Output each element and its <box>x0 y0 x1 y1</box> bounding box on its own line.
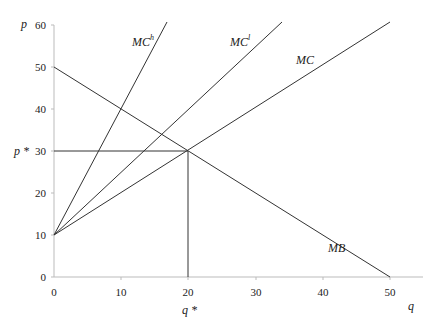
mc-label: MC <box>295 53 315 67</box>
y-tick-0: 0 <box>41 271 47 283</box>
y-tick-40: 40 <box>35 103 47 115</box>
x-ticks: 0 10 20 30 40 50 <box>51 277 396 298</box>
chart: 0 10 20 30 40 50 60 0 10 20 30 40 50 p q… <box>0 0 444 336</box>
x-tick-0: 0 <box>51 286 57 298</box>
x-axis-label: q <box>408 299 414 313</box>
mcl-label: MCl <box>229 33 251 49</box>
x-tick-10: 10 <box>116 286 128 298</box>
y-tick-30: 30 <box>35 145 47 157</box>
mc-line <box>54 22 390 235</box>
mch-line <box>54 22 167 235</box>
y-tick-10: 10 <box>35 229 47 241</box>
x-tick-50: 50 <box>385 286 397 298</box>
y-tick-50: 50 <box>35 61 47 73</box>
y-tick-60: 60 <box>35 19 47 31</box>
q-star-label: q * <box>182 303 197 317</box>
y-tick-20: 20 <box>35 187 47 199</box>
mch-label: MCh <box>131 33 154 49</box>
mcl-line <box>54 22 282 235</box>
mb-label: MB <box>327 241 346 255</box>
x-tick-30: 30 <box>251 286 263 298</box>
x-tick-20: 20 <box>183 286 195 298</box>
x-tick-40: 40 <box>318 286 330 298</box>
y-ticks: 0 10 20 30 40 50 60 <box>35 19 54 283</box>
y-axis-label: p <box>20 17 27 31</box>
p-star-label: p * <box>13 144 29 158</box>
